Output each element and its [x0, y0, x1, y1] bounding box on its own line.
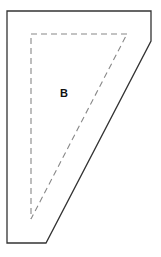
region-label: B: [60, 87, 68, 99]
diagram-canvas: B: [0, 0, 161, 257]
inner-dashed-triangle: [31, 34, 127, 219]
